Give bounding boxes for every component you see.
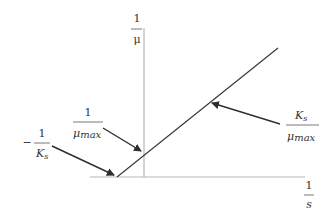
x-intercept-denominator-sub: s: [44, 152, 48, 161]
x-label-denominator: s: [306, 198, 312, 211]
y-intercept-numerator: 1: [85, 106, 92, 119]
y-intercept-denominator-main: μ: [73, 127, 80, 140]
y-intercept-denominator-sub: max: [80, 129, 101, 140]
svg-text:μmax: μmax: [287, 130, 316, 143]
x-intercept-numerator: 1: [39, 127, 46, 140]
slope-arrow: [212, 103, 280, 124]
svg-text:Ks: Ks: [35, 147, 48, 161]
svg-text:Ks: Ks: [294, 109, 307, 123]
y-axis-label: 1 μ: [131, 12, 142, 46]
slope-denominator-main: μ: [287, 130, 294, 143]
slope-denominator-sub: max: [294, 132, 315, 143]
y-label-denominator: μ: [133, 33, 140, 46]
y-intercept-arrow: [103, 128, 141, 151]
y-intercept-label: 1 μmax: [73, 106, 103, 140]
x-intercept-arrow: [52, 146, 114, 175]
slope-label: Ks μmax: [286, 109, 319, 143]
y-label-numerator: 1: [134, 12, 141, 25]
x-intercept-label: − 1 Ks: [22, 127, 50, 161]
x-axis-label: 1 s: [304, 179, 314, 211]
regression-line: [117, 48, 278, 177]
lineweaver-burk-diagram: 1 μ 1 s 1 μmax − 1 Ks Ks μmax: [0, 0, 333, 224]
x-label-numerator: 1: [306, 179, 313, 192]
svg-text:μmax: μmax: [73, 127, 102, 140]
slope-numerator-sub: s: [303, 114, 307, 123]
x-intercept-sign: −: [22, 136, 31, 149]
